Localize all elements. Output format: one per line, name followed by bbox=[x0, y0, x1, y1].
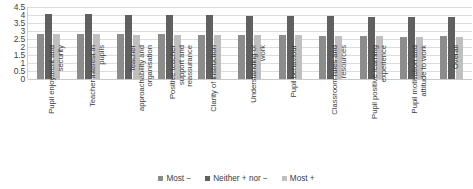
bar bbox=[319, 36, 326, 79]
y-axis-tick-label: 0 bbox=[20, 75, 25, 83]
category-axis-label: Clarity of instruction bbox=[210, 45, 219, 119]
category-label-cell: Classroom rules and resources bbox=[311, 82, 351, 160]
category-axis: Pupil enjoyment and securityTeacher inte… bbox=[28, 82, 472, 160]
legend-swatch-icon bbox=[158, 176, 163, 181]
bar-chart: 00.511.522.533.544.5 Pupil enjoyment and… bbox=[0, 0, 473, 189]
category-label-cell: Pupil motivation and attitude to work bbox=[391, 82, 431, 160]
bar bbox=[158, 34, 165, 79]
legend-item[interactable]: Most − bbox=[158, 174, 191, 183]
y-axis-tick-label: 2 bbox=[20, 43, 25, 51]
y-axis-tick-label: 1 bbox=[20, 59, 25, 67]
chart-legend: Most −Neither + nor −Most + bbox=[0, 174, 473, 183]
legend-item[interactable]: Neither + nor − bbox=[205, 174, 268, 183]
category-axis-label: Pupil positive learning experience bbox=[371, 45, 388, 119]
category-label-cell: Understanding of work bbox=[230, 82, 270, 160]
bar bbox=[279, 35, 286, 79]
legend-item[interactable]: Most + bbox=[282, 174, 315, 183]
category-label-cell: Clarity of instruction bbox=[189, 82, 229, 160]
bar bbox=[117, 34, 124, 79]
y-axis-tick-label: 4 bbox=[20, 11, 25, 19]
y-axis-tick-label: 3 bbox=[20, 27, 25, 35]
bar bbox=[360, 36, 367, 79]
category-axis-label: Pupil motivation and attitude to work bbox=[411, 45, 428, 119]
category-label-cell: Teacher approachability and organisation bbox=[109, 82, 149, 160]
y-axis-tick-label: 0.5 bbox=[14, 67, 25, 75]
bar bbox=[238, 35, 245, 79]
category-label-cell: Positive teacher support and reassurance bbox=[149, 82, 189, 160]
legend-label: Most − bbox=[166, 174, 191, 183]
y-axis: 00.511.522.533.544.5 bbox=[0, 0, 28, 82]
category-axis-label: Classroom rules and resources bbox=[331, 45, 348, 119]
bar bbox=[400, 37, 407, 79]
legend-swatch-icon bbox=[205, 176, 210, 181]
bar bbox=[198, 35, 205, 79]
legend-swatch-icon bbox=[282, 176, 287, 181]
legend-label: Most + bbox=[290, 174, 315, 183]
bar bbox=[77, 34, 84, 79]
y-axis-tick-label: 1.5 bbox=[14, 51, 25, 59]
category-label-cell: Teacher interest in pupils bbox=[68, 82, 108, 160]
bar bbox=[37, 34, 44, 79]
y-axis-tick-label: 3.5 bbox=[14, 19, 25, 27]
category-label-cell: Pupil behaviour bbox=[270, 82, 310, 160]
legend-label: Neither + nor − bbox=[213, 174, 268, 183]
category-label-cell: Overall bbox=[432, 82, 472, 160]
y-axis-tick-label: 4.5 bbox=[14, 3, 25, 11]
category-label-cell: Pupil enjoyment and security bbox=[28, 82, 68, 160]
category-axis-label: Teacher interest in pupils bbox=[89, 45, 106, 119]
category-axis-label: Overall bbox=[452, 45, 461, 119]
category-axis-label: Pupil behaviour bbox=[290, 45, 299, 119]
category-axis-label: Pupil enjoyment and security bbox=[48, 45, 65, 119]
category-label-cell: Pupil positive learning experience bbox=[351, 82, 391, 160]
plot-wrapper: 00.511.522.533.544.5 bbox=[0, 0, 473, 82]
category-axis-label: Understanding of work bbox=[250, 45, 267, 119]
y-axis-tick-label: 2.5 bbox=[14, 35, 25, 43]
bar bbox=[440, 36, 447, 79]
